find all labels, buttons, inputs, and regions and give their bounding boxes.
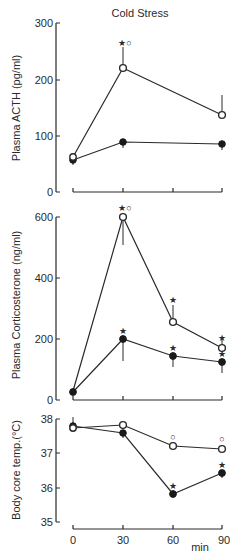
point-filled [219,470,226,477]
xtick-90: 90 [218,534,230,546]
significance-mark: ★ [218,349,226,359]
panel-corticosterone: Plasma Corticosterone (ng/ml) 600 400 20… [10,203,226,406]
ytick-temp-36: 36 [41,482,53,494]
significance-mark: ○ [170,432,175,442]
point-filled [170,491,177,498]
ytick-temp-38: 38 [41,413,53,425]
x-axis-corticosterone [73,396,222,400]
ytick-cort-600: 600 [35,211,53,223]
point-filled [219,141,226,148]
y-axis-corticosterone [56,217,60,400]
y-axis-label-acth: Plasma ACTH (pg/ml) [10,55,22,161]
y-axis-label-body-temp: Body core temp.(°C) [10,420,22,520]
significance-mark: ★○ [118,38,131,48]
point-open [70,425,76,431]
ytick-acth-0: 0 [47,186,53,198]
point-filled [170,353,177,360]
ytick-acth-100: 100 [35,130,53,142]
ytick-acth-200: 200 [35,74,53,86]
point-open [70,154,76,160]
series-filled-acth [73,142,222,160]
significance-mark: ★○ [118,203,131,213]
significance-mark: ★ [169,481,177,491]
y-axis-body-temp [56,419,60,522]
point-filled [120,430,127,437]
point-open [219,446,226,453]
ytick-cort-0: 0 [47,394,53,406]
y-axis-label-corticosterone: Plasma Corticosterone (ng/ml) [10,231,22,380]
ytick-temp-35: 35 [41,516,53,528]
series-filled-body-temp [73,426,222,494]
error-bars-acth [73,47,222,165]
significance-mark: ★ [218,333,226,343]
point-open [120,214,127,221]
significance-mark: ★ [119,326,127,336]
x-axis-unit-label: min [191,541,209,553]
series-filled-corticosterone [73,339,222,392]
panel-body-temp: Body core temp.(°C) 38 37 36 35 ○ ○ ★ ★ … [10,413,230,553]
ytick-acth-300: 300 [35,17,53,29]
significance-mark: ★ [169,343,177,353]
point-filled [219,359,226,366]
panel-acth: Plasma ACTH (pg/ml) 300 200 100 0 ★○ [10,17,225,198]
point-open [120,422,127,429]
point-open [120,65,127,72]
x-axis-body-temp [73,525,222,529]
xtick-30: 30 [117,534,129,546]
point-filled [120,336,127,343]
point-open [170,443,177,450]
xtick-0: 0 [70,534,76,546]
significance-mark: ★ [169,295,177,305]
point-filled [70,389,77,396]
chart-title: Cold Stress [112,7,169,19]
y-axis-acth [56,23,60,192]
point-filled [120,139,127,146]
cold-stress-figure: Cold Stress Plasma ACTH (pg/ml) 300 200 … [0,0,241,558]
significance-mark: ★ [218,460,226,470]
ytick-temp-37: 37 [41,447,53,459]
ytick-cort-200: 200 [35,333,53,345]
significance-mark: ○ [219,434,224,444]
point-open [170,319,177,326]
point-open [219,112,226,119]
ytick-cort-400: 400 [35,272,53,284]
x-axis-acth [73,188,222,192]
series-open-corticosterone [73,217,222,391]
xtick-60: 60 [167,534,179,546]
